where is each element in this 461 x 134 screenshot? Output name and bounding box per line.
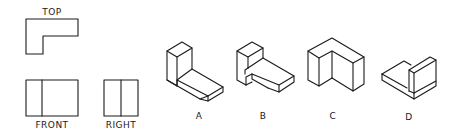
front-view: FRONT: [26, 80, 78, 130]
spatial-reasoning-diagram: TOP FRONT RIGHT A: [0, 0, 461, 134]
option-c-label: C: [330, 111, 337, 121]
option-a-figure[interactable]: A: [167, 42, 223, 121]
front-view-label: FRONT: [35, 120, 68, 130]
top-view-l-shape: [26, 19, 78, 54]
front-view-outline: [26, 80, 78, 116]
top-view: TOP: [26, 7, 78, 54]
option-d-label: D: [405, 112, 412, 122]
option-b-figure[interactable]: B: [237, 42, 294, 121]
option-c-figure[interactable]: C: [308, 38, 364, 121]
option-a-label: A: [196, 111, 203, 121]
option-d-figure[interactable]: D: [382, 57, 436, 122]
option-b-label: B: [260, 111, 267, 121]
right-view: RIGHT: [104, 80, 138, 130]
right-view-label: RIGHT: [106, 120, 137, 130]
top-view-label: TOP: [41, 7, 62, 17]
